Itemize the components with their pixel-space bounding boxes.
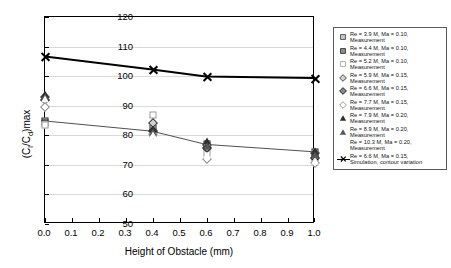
data-point	[202, 72, 213, 83]
legend-label: Re = 5.2 M, Ma = 0.10,Measurement	[350, 58, 408, 71]
legend-item[interactable]: Re = 5.9 M, Ma = 0.15,Measurement	[337, 72, 444, 85]
x-tick-label: 0.8	[248, 227, 272, 238]
legend-marker-square-icon	[337, 32, 350, 43]
legend-item[interactable]: Re = 6.6 M, Ma = 0.15,Simulation, contou…	[337, 153, 444, 166]
legend-label-line1: Re = 8.9 M, Ma = 0.20,	[350, 126, 408, 132]
legend-item[interactable]: Re = 7.7 M, Ma = 0.15,Measurement	[337, 99, 444, 112]
legend-label-line2: Measurement	[350, 64, 408, 70]
legend-label-line1: Re = 5.9 M, Ma = 0.15,	[350, 72, 408, 78]
legend-label: Re = 7.9 M, Ma = 0.20,Measurement	[350, 112, 408, 125]
series-lines	[45, 17, 313, 222]
x-tick-label: 0.1	[59, 227, 83, 238]
y-axis-title: (Cl/Cd)max	[21, 110, 35, 159]
x-tick-label: 0.3	[113, 227, 137, 238]
data-point	[42, 121, 49, 128]
legend-marker-square-icon	[337, 59, 350, 70]
legend-marker-diamond-icon	[337, 73, 350, 84]
data-point	[311, 157, 319, 164]
legend-label: Re = 7.7 M, Ma = 0.15,Measurement	[350, 99, 408, 112]
legend-label: Re = 6.6 M, Ma = 0.15,Measurement	[350, 85, 408, 98]
data-point	[41, 95, 49, 102]
plot-area	[44, 16, 314, 223]
legend-item[interactable]: Re = 8.9 M, Ma = 0.20,Measurement	[337, 126, 444, 139]
chart-legend: Re = 3.9 M, Ma = 0.10,MeasurementRe = 4.…	[333, 27, 447, 170]
legend-label-line1: Re = 4.4 M, Ma = 0.10,	[350, 45, 408, 51]
x-axis-title: Height of Obstacle (mm)	[44, 246, 314, 257]
data-point	[203, 142, 211, 149]
x-tick-label: 0.2	[86, 227, 110, 238]
y-tick-label: 100	[107, 70, 133, 81]
x-tick-mark	[314, 218, 315, 222]
y-tick-label: 70	[107, 158, 133, 169]
legend-item[interactable]: Re = 6.6 M, Ma = 0.15,Measurement	[337, 85, 444, 98]
legend-item[interactable]: Re = 10.3 M, Ma = 0.20,Measurement	[337, 139, 444, 152]
simulation-line	[45, 57, 313, 78]
x-tick-label: 0.5	[167, 227, 191, 238]
y-tick-label: 60	[107, 188, 133, 199]
legend-label-line2: Measurement	[350, 132, 408, 138]
legend-marker-triangle-icon	[337, 127, 350, 138]
legend-marker-x-line-icon	[337, 154, 350, 165]
y-tick-mark	[45, 224, 49, 225]
legend-label-line2: Measurement	[350, 118, 408, 124]
y-tick-label: 120	[107, 11, 133, 22]
legend-item[interactable]: Re = 7.9 M, Ma = 0.20,Measurement	[337, 112, 444, 125]
legend-label: Re = 5.9 M, Ma = 0.15,Measurement	[350, 72, 408, 85]
legend-label: Re = 3.9 M, Ma = 0.10,Measurement	[350, 31, 408, 44]
x-tick-label: 0.9	[275, 227, 299, 238]
legend-item[interactable]: Re = 4.4 M, Ma = 0.10,Measurement	[337, 45, 444, 58]
legend-label: Re = 6.6 M, Ma = 0.15,Simulation, contou…	[350, 153, 422, 166]
legend-label: Re = 10.3 M, Ma = 0.20,Measurement	[350, 139, 412, 152]
legend-label-line2: Measurement	[350, 105, 408, 111]
x-tick-label: 1.0	[302, 227, 326, 238]
x-tick-label: 0.0	[32, 227, 56, 238]
legend-marker-diamond-icon	[337, 86, 350, 97]
legend-label: Re = 8.9 M, Ma = 0.20,Measurement	[350, 126, 408, 139]
data-point	[40, 51, 51, 62]
data-point	[149, 132, 157, 139]
legend-marker-triangle-icon	[337, 113, 350, 124]
legend-label-line2: Measurement	[350, 91, 408, 97]
legend-label: Re = 4.4 M, Ma = 0.10,Measurement	[350, 45, 408, 58]
chart-root: (Cl/Cd)max Height of Obstacle (mm) 50607…	[0, 0, 451, 268]
data-point	[148, 64, 159, 75]
legend-label-line2: Simulation, contour variation	[350, 159, 422, 165]
y-tick-label: 80	[107, 129, 133, 140]
x-tick-label: 0.4	[140, 227, 164, 238]
legend-label-line2: Measurement	[350, 51, 408, 57]
legend-label-line2: Measurement	[350, 37, 408, 43]
legend-item[interactable]: Re = 5.2 M, Ma = 0.10,Measurement	[337, 58, 444, 71]
y-tick-label: 90	[107, 99, 133, 110]
x-tick-label: 0.7	[221, 227, 245, 238]
measurement-line	[45, 121, 313, 152]
legend-label-line2: Measurement	[350, 145, 412, 151]
legend-marker-square-icon	[337, 46, 350, 57]
data-point	[310, 73, 321, 84]
data-point	[203, 152, 211, 159]
y-tick-label: 110	[107, 40, 133, 51]
legend-item[interactable]: Re = 3.9 M, Ma = 0.10,Measurement	[337, 31, 444, 44]
legend-marker-triangle-icon	[337, 140, 350, 151]
legend-marker-diamond-icon	[337, 100, 350, 111]
legend-label-line1: Re = 7.7 M, Ma = 0.15,	[350, 99, 408, 105]
legend-label-line2: Measurement	[350, 78, 408, 84]
x-tick-label: 0.6	[194, 227, 218, 238]
